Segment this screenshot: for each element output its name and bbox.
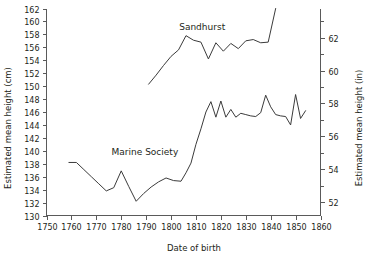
data-series-group xyxy=(69,9,306,202)
bottom-axis-tick-label: 1790 xyxy=(136,223,156,232)
bottom-axis-tick-label: 1830 xyxy=(236,223,256,232)
left-axis-tick-label: 154 xyxy=(24,57,39,66)
right-axis-tick-label: 58 xyxy=(329,100,339,109)
series-label-marine-society: Marine Society xyxy=(112,147,179,157)
right-axis: 525456586062 xyxy=(321,9,339,216)
bottom-axis-title: Date of birth xyxy=(167,243,221,253)
left-axis-tick-label: 142 xyxy=(24,135,39,144)
left-axis-tick-label: 160 xyxy=(24,18,39,27)
right-axis-title: Estimated mean height (in) xyxy=(354,70,364,187)
left-axis-tick-label: 162 xyxy=(24,6,39,15)
bottom-axis-tick-label: 1820 xyxy=(211,223,231,232)
left-axis-tick-label: 140 xyxy=(24,148,39,157)
bottom-axis-tick-label: 1860 xyxy=(311,223,331,232)
left-axis-tick-label: 146 xyxy=(24,109,39,118)
bottom-axis-tick-label: 1760 xyxy=(61,223,81,232)
right-axis-tick-label: 60 xyxy=(329,68,339,77)
left-axis-tick-label: 138 xyxy=(24,161,39,170)
left-axis-title: Estimated mean height (cm) xyxy=(3,67,13,189)
series-annotations: Marine SocietySandhurst xyxy=(112,22,226,156)
bottom-axis-tick-label: 1810 xyxy=(186,223,206,232)
left-axis-tick-label: 130 xyxy=(24,213,39,222)
bottom-axis-tick-label: 1770 xyxy=(86,223,106,232)
series-label-sandhurst: Sandhurst xyxy=(179,22,225,32)
left-axis-tick-label: 148 xyxy=(24,96,39,105)
left-axis-tick-label: 152 xyxy=(24,70,39,79)
left-axis-tick-label: 134 xyxy=(24,187,39,196)
bottom-axis-tick-label: 1750 xyxy=(37,223,57,232)
bottom-axis-tick-label: 1850 xyxy=(286,223,306,232)
series-line-marine-society xyxy=(69,95,306,202)
series-line-sandhurst xyxy=(149,9,276,85)
right-axis-tick-label: 54 xyxy=(329,166,339,175)
bottom-axis-tick-label: 1840 xyxy=(261,223,281,232)
left-axis-tick-label: 136 xyxy=(24,174,39,183)
bottom-axis-tick-label: 1800 xyxy=(161,223,181,232)
left-axis: 1301321341361381401421441461481501521541… xyxy=(24,6,46,222)
right-axis-tick-label: 62 xyxy=(329,35,339,44)
bottom-axis-tick-label: 1780 xyxy=(111,223,131,232)
left-axis-tick-label: 158 xyxy=(24,31,39,40)
right-axis-tick-label: 52 xyxy=(329,199,339,208)
line-chart: 1301321341361381401421441461481501521541… xyxy=(0,0,372,255)
right-axis-tick-label: 56 xyxy=(329,133,339,142)
left-axis-tick-label: 156 xyxy=(24,44,39,53)
left-axis-tick-label: 150 xyxy=(24,83,39,92)
chart-container: 1301321341361381401421441461481501521541… xyxy=(0,0,372,255)
bottom-axis: 1750176017701780179018001810182018301840… xyxy=(37,216,331,232)
left-axis-tick-label: 132 xyxy=(24,200,39,209)
left-axis-tick-label: 144 xyxy=(24,122,39,131)
